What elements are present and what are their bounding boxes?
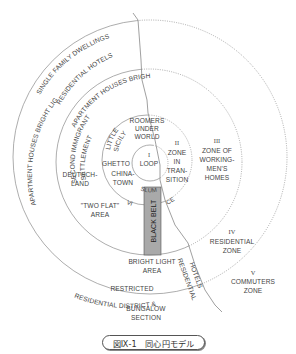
roomers-underworld-label: ROOMERS UNDER WORLD: [130, 117, 165, 140]
svg-text:TRAN-: TRAN-: [167, 167, 188, 174]
zone-iv-label: IV RESIDENTIAL ZONE: [210, 228, 255, 254]
svg-text:V: V: [251, 269, 256, 276]
concentric-zone-diagram: BLACK BELT I LOOP II ZONE IN TRAN- SITIO…: [0, 0, 296, 354]
svg-text:SITION: SITION: [166, 176, 189, 183]
svg-text:"TWO FLAT": "TWO FLAT": [81, 202, 120, 209]
svg-text:II: II: [175, 139, 179, 146]
svg-text:RESIDENTIAL: RESIDENTIAL: [210, 238, 255, 245]
svg-text:ROOMERS: ROOMERS: [130, 117, 165, 124]
residential-hotels-south-label: RESIDENTIAL HOTELS: [176, 257, 204, 301]
svg-text:HOMES: HOMES: [205, 174, 230, 181]
bright-light-area-label: BRIGHT LIGHT AREA: [128, 258, 175, 274]
svg-text:ZONE: ZONE: [223, 247, 242, 254]
svg-text:MEN'S: MEN'S: [207, 165, 228, 172]
svg-text:SECTION: SECTION: [131, 314, 161, 321]
restricted-label: RESTRICTED: [110, 285, 153, 292]
svg-text:BRIGHT LIGHT: BRIGHT LIGHT: [128, 258, 175, 265]
two-flat-area-label: "TWO FLAT" AREA: [81, 202, 120, 218]
ghetto-label: GHETTO: [102, 160, 130, 167]
svg-text:UNDER: UNDER: [135, 125, 159, 132]
svg-text:AREA: AREA: [91, 211, 110, 218]
svg-text:COMMUTERS: COMMUTERS: [231, 278, 276, 285]
svg-text:AREA: AREA: [143, 267, 162, 274]
svg-text:I: I: [148, 151, 150, 158]
svg-text:III: III: [214, 137, 221, 144]
chinatown-label: CHINA- TOWN: [111, 170, 134, 186]
svg-text:ZONE: ZONE: [168, 149, 187, 156]
zone-iii-label: III ZONE OF WORKING- MEN'S HOMES: [199, 137, 234, 181]
zone-ii-label: II ZONE IN TRAN- SITION: [166, 139, 189, 183]
svg-text:WORKING-: WORKING-: [199, 156, 234, 163]
svg-text:ZONE: ZONE: [244, 287, 263, 294]
svg-text:ZONE OF: ZONE OF: [202, 147, 232, 154]
svg-text:WORLD: WORLD: [134, 133, 159, 140]
svg-text:LOOP: LOOP: [140, 160, 159, 167]
svg-text:IV: IV: [229, 228, 236, 235]
zone-i-label: I LOOP: [140, 151, 159, 167]
svg-text:CHINA-: CHINA-: [111, 170, 134, 177]
figure-caption: 図Ⅸ-1 同心円モデル: [102, 335, 205, 350]
svg-text:TOWN: TOWN: [113, 179, 134, 186]
svg-text:IN: IN: [174, 158, 181, 165]
bright-light-area-label-top: APARTMENT HOUSES BRIGHT LIGHT AREA: [0, 0, 151, 128]
black-belt-label: BLACK BELT: [150, 199, 157, 243]
bungalow-section-label: BUNGALOW SECTION: [126, 305, 166, 321]
svg-text:BUNGALOW: BUNGALOW: [126, 305, 166, 312]
zone-v-label: V COMMUTERS ZONE: [231, 269, 276, 294]
apartment-houses-label: APARTMENT HOUSES BRIGHT LIGHT AREA: [0, 0, 59, 206]
